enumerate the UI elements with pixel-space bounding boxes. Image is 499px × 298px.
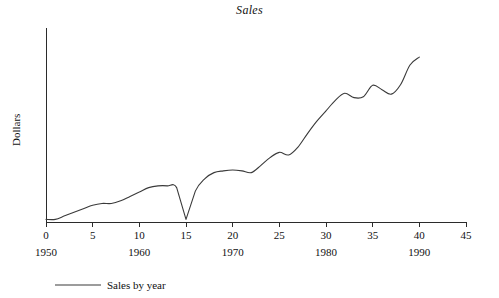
x-axis-ticks [46,222,466,227]
x-tick-label: 10 [134,229,145,241]
x-tick-label: 45 [461,229,472,241]
x-tick-label: 40 [414,229,425,241]
x-tick-label: 35 [367,229,378,241]
axes-group [46,28,466,227]
x-year-label: 1960 [128,246,150,258]
x-tick-label: 25 [274,229,285,241]
x-year-label: 1990 [408,246,430,258]
series-group [46,57,419,220]
x-tick-label: 15 [181,229,192,241]
x-year-label: 1970 [222,246,244,258]
x-tick-label: 5 [90,229,96,241]
x-year-label: 1950 [35,246,57,258]
chart-page: Sales Dollars 051015202530354045 1950196… [0,0,499,298]
x-year-label: 1980 [315,246,337,258]
series-line-sales-by-year [46,57,419,220]
x-tick-label: 30 [321,229,332,241]
x-tick-label: 20 [227,229,238,241]
legend-line-swatch [55,280,101,290]
legend-label-sales-by-year: Sales by year [107,279,166,291]
chart-legend: Sales by year [55,277,166,293]
x-tick-label: 0 [43,229,49,241]
